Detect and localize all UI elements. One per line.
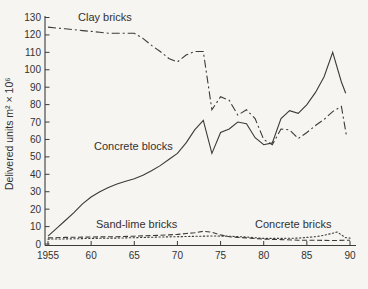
annotation-concrete-blocks: Concrete blocks [94,140,173,152]
y-tick-label: 130 [24,12,41,23]
y-tick-label: 120 [24,29,41,40]
y-tick-label: 70 [30,117,42,128]
x-tick-label: 1955 [37,250,60,261]
x-tick-label: 75 [215,250,227,261]
y-tick-label: 40 [30,169,42,180]
annotation-clay-bricks: Clay bricks [78,11,132,23]
line-chart: 0102030405060708090100110120130195560657… [0,0,368,289]
x-tick-label: 80 [258,250,270,261]
x-tick-label: 85 [301,250,313,261]
y-tick-label: 60 [30,134,42,145]
series-line-sand-lime-bricks [48,231,350,240]
y-tick-label: 10 [30,221,42,232]
annotation-concrete-bricks: Concrete bricks [255,218,332,230]
annotation-sand-lime-bricks: Sand-lime bricks [96,218,178,230]
y-tick-label: 20 [30,204,42,215]
y-tick-label: 80 [30,99,42,110]
y-tick-label: 50 [30,151,42,162]
y-tick-label: 110 [25,47,41,58]
y-tick-label: 0 [35,239,41,250]
y-tick-label: 30 [30,186,42,197]
series-lines [48,27,350,240]
y-axis-title: Delivered units m² × 10⁶ [3,77,15,190]
x-tick-label: 65 [129,250,141,261]
x-tick-label: 70 [172,250,184,261]
x-tick-label: 60 [86,250,98,261]
y-tick-label: 100 [24,64,41,75]
y-tick-label: 90 [30,82,42,93]
chart-figure: 0102030405060708090100110120130195560657… [0,0,368,289]
series-line-concrete-blocks [48,52,346,236]
x-tick-label: 90 [344,250,356,261]
series-line-concrete-bricks [48,232,350,239]
annotations: Clay bricks Concrete blocks Sand-lime br… [78,11,332,230]
